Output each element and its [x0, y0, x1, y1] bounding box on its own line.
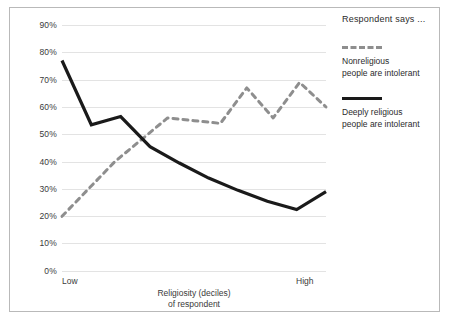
y-tick-label-10: 10%: [39, 238, 57, 248]
legend-label-line2: people are intolerant: [342, 68, 442, 80]
y-tick-label-80: 80%: [39, 47, 57, 57]
chart-screenshot: 90% 80% 70% 60% 50% 40% 30% 20% 10% 0% L…: [0, 0, 451, 327]
legend-entry-deeply-religious[interactable]: Deeply religious people are intolerant: [342, 97, 442, 130]
legend-label-nonreligious: Nonreligious people are intolerant: [342, 56, 442, 79]
x-axis-low-label: Low: [62, 276, 78, 286]
legend-label-line1: Nonreligious: [342, 56, 442, 68]
y-axis: 90% 80% 70% 60% 50% 40% 30% 20% 10% 0%: [20, 0, 57, 327]
x-axis-title-line1: Religiosity (deciles): [62, 288, 326, 299]
x-axis-title: Religiosity (deciles) of respondent: [62, 288, 326, 310]
legend-entry-nonreligious[interactable]: Nonreligious people are intolerant: [342, 46, 442, 79]
series-svg: [62, 25, 326, 271]
x-axis-title-line2: of respondent: [62, 299, 326, 310]
y-tick-label-60: 60%: [39, 102, 57, 112]
legend-label-line1: Deeply religious: [342, 107, 442, 119]
y-tick-label-20: 20%: [39, 211, 57, 221]
legend-swatch-solid-icon: [342, 97, 382, 100]
plot-area: [62, 25, 326, 271]
y-tick-label-90: 90%: [39, 20, 57, 30]
legend-label-line2: people are intolerant: [342, 119, 442, 131]
legend-title: Respondent says ...: [342, 14, 442, 24]
x-axis-high-label: High: [296, 276, 313, 286]
legend-swatch-dashed-icon: [342, 46, 382, 49]
series-line-nonreligious: [62, 82, 326, 216]
y-tick-label-40: 40%: [39, 157, 57, 167]
y-tick-label-30: 30%: [39, 184, 57, 194]
y-tick-label-0: 0%: [44, 266, 57, 276]
y-tick-label-70: 70%: [39, 75, 57, 85]
series-line-deeply-religious: [62, 61, 326, 210]
legend: Respondent says ... Nonreligious people …: [342, 14, 442, 148]
legend-label-deeply-religious: Deeply religious people are intolerant: [342, 107, 442, 130]
y-tick-label-50: 50%: [39, 129, 57, 139]
